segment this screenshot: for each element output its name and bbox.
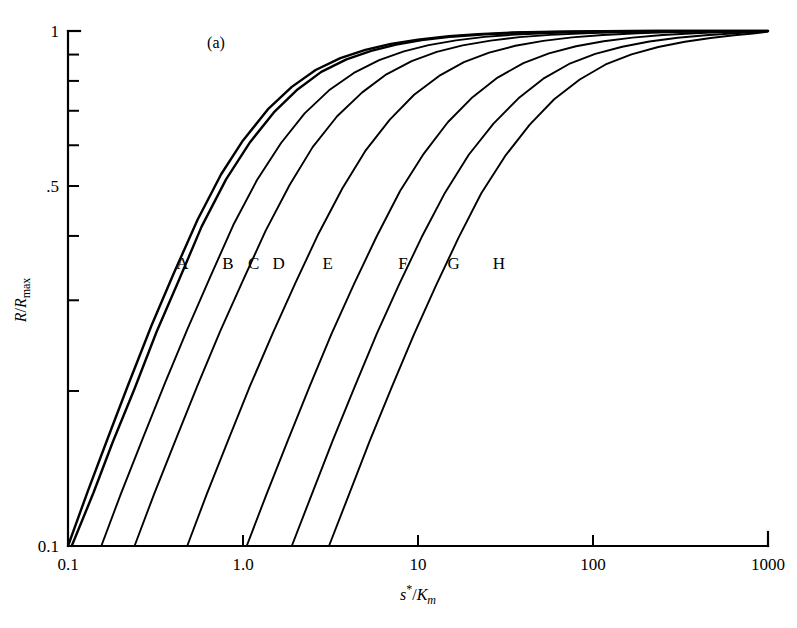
chart-svg: ABCDEFGH 1.50.1 0.11.0101001000 (a) s*/K…: [0, 0, 797, 628]
y-title-sub-max: max: [19, 278, 33, 299]
y-tick-labels: 1.50.1: [38, 22, 59, 556]
curve-label-e: E: [323, 254, 333, 273]
x-tick-label: 100: [580, 555, 606, 574]
x-tick-label: 1000: [751, 555, 785, 574]
cropped-header-text: [0, 0, 797, 10]
panel-label: (a): [207, 34, 225, 52]
curve-b: [72, 31, 768, 546]
svg-text:R/Rmax: R/Rmax: [12, 278, 33, 324]
curve-label-f: F: [398, 254, 407, 273]
curve-group: [68, 31, 768, 546]
x-title-sub-m: m: [427, 593, 436, 607]
curve-e: [187, 31, 768, 546]
curve-label-group: ABCDEFGH: [176, 254, 505, 273]
axis-frame: [68, 31, 768, 546]
curve-g: [292, 31, 768, 546]
figure-container: ABCDEFGH 1.50.1 0.11.0101001000 (a) s*/K…: [0, 0, 797, 628]
y-tick-label: .5: [46, 177, 59, 196]
curve-label-a: A: [176, 254, 189, 273]
x-tick-label: 1.0: [232, 555, 253, 574]
y-title-R: R: [12, 312, 29, 323]
svg-text:s*/Km: s*/Km: [400, 582, 436, 607]
y-tick-marks: [68, 55, 79, 391]
curve-a: [68, 31, 768, 546]
y-title-R2: R: [12, 298, 29, 309]
curve-label-g: G: [448, 254, 460, 273]
x-tick-label: 0.1: [57, 555, 78, 574]
curve-label-d: D: [273, 254, 285, 273]
x-tick-label: 10: [410, 555, 427, 574]
curve-label-h: H: [493, 254, 505, 273]
y-axis-title: R/Rmax: [12, 278, 33, 324]
x-tick-labels: 0.11.0101001000: [57, 555, 785, 574]
curve-label-c: C: [248, 254, 259, 273]
y-tick-label: 0.1: [38, 537, 59, 556]
x-axis-title: s*/Km: [400, 582, 436, 607]
curve-h: [329, 31, 768, 546]
curve-label-b: B: [222, 254, 233, 273]
y-tick-label: 1: [51, 22, 60, 41]
curve-d: [135, 31, 768, 546]
